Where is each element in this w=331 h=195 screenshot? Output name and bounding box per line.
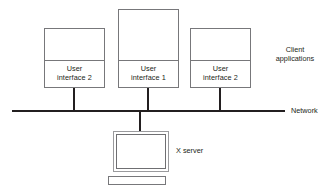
network-bus-line [12, 110, 285, 112]
x-server-label-text: X server [176, 146, 203, 155]
client-applications-label-line2: applications [263, 54, 327, 63]
client-box-user-interface-2-left: User interface 2 [44, 28, 105, 88]
client-box-user-interface-2-right: User interface 2 [190, 28, 251, 88]
client-box-label: User interface 1 [119, 61, 178, 82]
client-box-label-line1: User [45, 64, 104, 73]
network-label: Network [291, 106, 318, 115]
connector-client-2-to-network [147, 88, 149, 111]
client-box-upper-area [119, 10, 178, 61]
client-box-label-line2: interface 2 [45, 73, 104, 82]
client-box-label-line1: User [191, 64, 250, 73]
x-server-label: X server [176, 146, 203, 155]
connector-client-3-to-network [219, 88, 221, 111]
client-box-label-line2: interface 1 [119, 73, 178, 82]
x-server-monitor-screen [116, 134, 166, 169]
client-box-label: User interface 2 [191, 61, 250, 82]
client-box-upper-area [191, 29, 250, 61]
client-box-label: User interface 2 [45, 61, 104, 82]
connector-client-1-to-network [73, 88, 75, 111]
client-box-label-line1: User [119, 64, 178, 73]
connector-network-to-x-server [139, 111, 141, 132]
x-server-monitor-base [108, 176, 166, 185]
network-label-text: Network [291, 106, 318, 115]
client-applications-label: Client applications [263, 45, 327, 64]
client-applications-label-line1: Client [263, 45, 327, 54]
client-box-label-line2: interface 2 [191, 73, 250, 82]
client-box-upper-area [45, 29, 104, 61]
x-window-system-architecture-diagram: User interface 2 User interface 1 User i… [0, 0, 331, 195]
client-box-user-interface-1-center: User interface 1 [118, 9, 179, 88]
